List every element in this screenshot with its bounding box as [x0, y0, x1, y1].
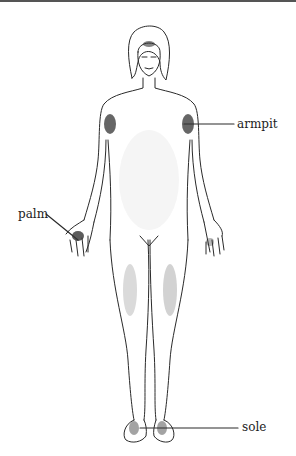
hair	[129, 26, 170, 80]
left-arm-inner	[94, 140, 106, 222]
left-leg-inner	[144, 240, 149, 420]
label-palm: palm	[18, 208, 48, 220]
label-armpit: armpit	[237, 118, 278, 130]
label-sole: sole	[242, 421, 266, 433]
left-side	[108, 140, 111, 240]
right-hand	[204, 220, 224, 256]
right-leg-inner	[150, 240, 156, 420]
mouth	[145, 68, 153, 69]
right-arm-inner	[192, 140, 204, 222]
groin	[140, 236, 158, 246]
body-illustration	[0, 0, 296, 456]
face	[138, 43, 160, 76]
right-side	[187, 140, 190, 240]
sweat-gland-stipple	[72, 41, 214, 435]
